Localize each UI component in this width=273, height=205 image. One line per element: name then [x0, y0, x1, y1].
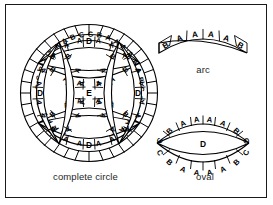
svg-text:A: A — [192, 30, 199, 40]
caption-oval: oval — [174, 172, 236, 182]
svg-text:B: B — [164, 157, 175, 168]
svg-text:B: B — [231, 157, 242, 168]
svg-text:A: A — [206, 115, 213, 125]
region-label-d-bottom: D — [86, 140, 92, 150]
region-label-d-top: D — [86, 36, 92, 46]
caption-arc: arc — [172, 65, 234, 75]
caption-complete-circle: complete circle — [18, 172, 153, 182]
region-label-d-right: D — [135, 88, 141, 98]
shape-complete-circle: C B A A A A B C C B A A A A A A B C C B — [21, 25, 158, 162]
svg-text:A: A — [222, 33, 230, 43]
svg-text:C: C — [241, 148, 252, 157]
region-label-d-left: D — [37, 88, 43, 98]
region-label-e-center: E — [86, 88, 92, 98]
svg-text:C: C — [155, 148, 166, 157]
region-label-d-oval: D — [200, 139, 206, 149]
svg-text:A: A — [208, 30, 215, 40]
svg-text:A: A — [193, 115, 200, 125]
shape-arc: B A A A A B — [159, 29, 247, 53]
svg-text:A: A — [175, 33, 183, 43]
shape-oval: C B A A A A B C C B A A A A B C D — [155, 115, 252, 178]
